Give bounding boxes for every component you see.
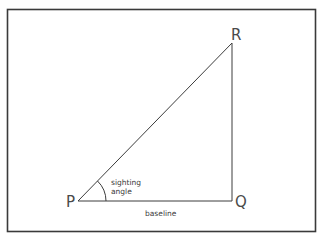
sighting-angle-arc xyxy=(98,181,107,201)
baseline-label: baseline xyxy=(145,209,177,218)
vertex-label-r: R xyxy=(231,26,241,44)
sighting-angle-diagram: P Q R sighting angle baseline xyxy=(0,0,322,241)
vertex-label-q: Q xyxy=(235,193,247,211)
diagram-frame xyxy=(8,10,316,232)
sighting-angle-label-line2: angle xyxy=(111,187,132,196)
sighting-angle-label-line1: sighting xyxy=(111,178,141,187)
hypotenuse-edge-pr xyxy=(78,43,232,201)
vertex-label-p: P xyxy=(66,193,75,211)
